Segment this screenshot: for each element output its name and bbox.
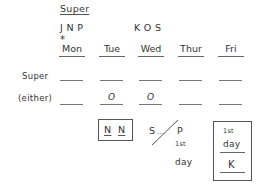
slot-super-mon[interactable]	[60, 80, 83, 81]
group-left-letters: J N P	[60, 23, 83, 33]
box-divider	[220, 152, 245, 153]
day-underline	[138, 56, 164, 57]
day-underline	[178, 56, 204, 57]
slot-super-thur[interactable]	[179, 80, 202, 81]
day-underline	[59, 56, 85, 57]
day-header-mon: Mon	[59, 44, 85, 54]
block-letter-n: N	[118, 125, 125, 135]
slot-super-wed[interactable]	[139, 80, 162, 81]
block-letter-n: N	[104, 125, 111, 135]
day-header-tue: Tue	[99, 44, 125, 54]
group-right-letters: K O S	[134, 23, 161, 33]
box-letter-k: K	[228, 160, 235, 170]
slot-either-wed[interactable]	[139, 104, 162, 105]
slot-either-fri[interactable]	[219, 104, 242, 105]
slot-value-o: O	[139, 93, 162, 102]
slot-super-tue[interactable]	[100, 80, 123, 81]
slot-value-o: O	[100, 93, 123, 102]
box-day-label: day	[223, 139, 240, 149]
box-underline	[220, 172, 245, 173]
slot-either-thur[interactable]	[179, 104, 202, 105]
day-underline	[99, 56, 125, 57]
rule-first-label: 1st	[175, 139, 186, 149]
nn-block-box: N N	[98, 119, 133, 141]
super-header-label: Super	[60, 4, 89, 14]
box-first-label: 1st	[223, 126, 234, 136]
first-day-k-box: 1st day K	[213, 121, 252, 181]
row-label-super: Super	[22, 71, 48, 81]
day-header-fri: Fri	[218, 44, 244, 54]
rule-day-label: day	[175, 157, 192, 167]
day-header-thur: Thur	[178, 44, 204, 54]
slot-either-tue[interactable]	[100, 104, 123, 105]
row-label-either: (either)	[18, 93, 52, 103]
day-underline	[218, 56, 244, 57]
slot-either-mon[interactable]	[60, 104, 83, 105]
day-header-wed: Wed	[138, 44, 164, 54]
slot-super-fri[interactable]	[219, 80, 242, 81]
